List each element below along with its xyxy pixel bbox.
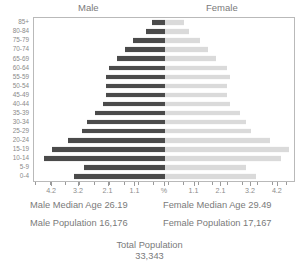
x-tick-minor (94, 182, 95, 185)
table-row (34, 173, 294, 180)
female-half (165, 146, 294, 153)
x-tick-minor (35, 182, 36, 185)
table-row (34, 137, 294, 144)
age-label-10-14: 10-14 (13, 155, 29, 161)
male-half (34, 110, 165, 117)
male-bar-20-24 (68, 137, 165, 144)
male-bar-85+ (152, 19, 165, 26)
bar-rows (34, 18, 294, 181)
female-half (165, 74, 294, 81)
female-bar-50-54 (165, 83, 227, 90)
x-tick-label: 3.2 (245, 186, 255, 195)
age-label-80-84: 80-84 (13, 28, 29, 34)
age-group-axis: 0-45-910-1415-1920-2425-2930-3435-3940-4… (0, 17, 31, 182)
male-bar-55-59 (106, 74, 165, 81)
x-tick-minor (198, 182, 199, 185)
female-half (165, 92, 294, 99)
table-row (34, 19, 294, 26)
female-half (165, 19, 294, 26)
male-bar-10-14 (44, 155, 165, 162)
x-tick-minor (79, 182, 80, 185)
age-label-50-54: 50-54 (13, 83, 29, 89)
x-tick-label: 2.1 (103, 186, 113, 195)
female-bar-70-74 (165, 46, 208, 53)
female-bar-60-64 (165, 65, 227, 72)
male-bar-5-9 (84, 164, 165, 171)
female-bar-85+ (165, 19, 184, 26)
age-label-70-74: 70-74 (13, 46, 29, 52)
male-median-age: Male Median Age 26.19 (30, 200, 128, 210)
male-half (34, 173, 165, 180)
table-row (34, 65, 294, 72)
table-row (34, 101, 294, 108)
female-half (165, 164, 294, 171)
x-tick-label: % (161, 186, 167, 195)
x-tick-minor (109, 182, 110, 185)
x-tick-label: 3.2 (73, 186, 83, 195)
x-tick-label: 4.2 (46, 186, 56, 195)
female-bar-45-49 (165, 92, 227, 99)
total-population: Total Population 33,343 (0, 240, 299, 262)
population-pyramid-plot (33, 17, 295, 182)
female-bar-5-9 (165, 164, 246, 171)
legend-female-label: Female (206, 2, 238, 13)
female-bar-80-84 (165, 28, 189, 35)
total-population-label: Total Population (0, 240, 299, 251)
male-half (34, 155, 165, 162)
female-half (165, 137, 294, 144)
age-label-25-29: 25-29 (13, 128, 29, 134)
table-row (34, 28, 294, 35)
female-bar-55-59 (165, 74, 230, 81)
x-tick-label: 2.1 (215, 186, 225, 195)
summary-stats: Male Median Age 26.19 Female Median Age … (0, 200, 299, 236)
x-tick-minor (227, 182, 228, 185)
age-label-20-24: 20-24 (13, 137, 29, 143)
male-bar-0-4 (74, 173, 165, 180)
female-half (165, 110, 294, 117)
female-population: Female Population 17,167 (163, 218, 272, 228)
female-half (165, 65, 294, 72)
male-half (34, 83, 165, 90)
x-tick-minor (257, 182, 258, 185)
male-half (34, 55, 165, 62)
x-tick-label: 1.1 (189, 186, 199, 195)
x-tick-minor (124, 182, 125, 185)
male-half (34, 101, 165, 108)
male-half (34, 28, 165, 35)
table-row (34, 37, 294, 44)
table-row (34, 55, 294, 62)
female-bar-35-39 (165, 110, 240, 117)
x-tick-minor (138, 182, 139, 185)
female-bar-20-24 (165, 137, 270, 144)
age-label-35-39: 35-39 (13, 110, 29, 116)
table-row (34, 110, 294, 117)
table-row (34, 119, 294, 126)
total-population-value: 33,343 (0, 251, 299, 262)
male-bar-35-39 (95, 110, 165, 117)
male-half (34, 164, 165, 171)
female-half (165, 173, 294, 180)
female-bar-0-4 (165, 173, 256, 180)
male-half (34, 19, 165, 26)
male-population: Male Population 16,176 (30, 218, 128, 228)
male-half (34, 128, 165, 135)
population-row: Male Population 16,176 Female Population… (0, 218, 299, 236)
table-row (34, 74, 294, 81)
x-tick-minor (168, 182, 169, 185)
female-half (165, 28, 294, 35)
table-row (34, 164, 294, 171)
male-half (34, 119, 165, 126)
female-bar-25-29 (165, 128, 251, 135)
female-half (165, 155, 294, 162)
female-bar-30-34 (165, 119, 246, 126)
age-label-55-59: 55-59 (13, 74, 29, 80)
female-half (165, 119, 294, 126)
male-bar-50-54 (106, 83, 165, 90)
x-tick-label: 4.2 (272, 186, 282, 195)
female-half (165, 128, 294, 135)
female-bar-15-19 (165, 146, 289, 153)
age-label-0-4: 0-4 (20, 173, 29, 179)
male-half (34, 37, 165, 44)
x-tick-label: 1.1 (129, 186, 139, 195)
male-half (34, 92, 165, 99)
